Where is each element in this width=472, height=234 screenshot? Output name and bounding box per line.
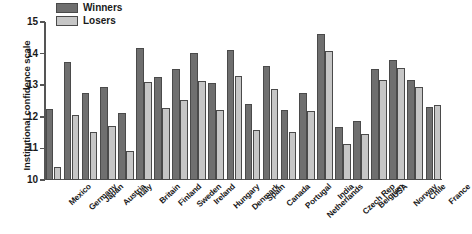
bar (299, 93, 307, 180)
bar (325, 51, 333, 180)
plot-area: 101112131415 (44, 22, 442, 180)
bar (190, 53, 198, 180)
x-axis-label: France (447, 182, 472, 206)
legend-label: Winners (83, 3, 122, 13)
bar (227, 50, 235, 180)
bar (434, 105, 442, 180)
bar (126, 151, 134, 180)
bar-group (46, 22, 62, 180)
bar (72, 115, 80, 180)
bar (198, 81, 206, 180)
bar (343, 144, 351, 180)
bar (245, 104, 253, 180)
bar-group (154, 22, 170, 180)
y-axis-tick-label: 14 (27, 49, 38, 59)
bar-group (100, 22, 116, 180)
bar (208, 83, 216, 180)
bar (289, 132, 297, 180)
bar-group (263, 22, 279, 180)
bar-group (172, 22, 188, 180)
bar-group (227, 22, 243, 180)
bar (415, 87, 423, 180)
bar-group (64, 22, 80, 180)
bar (397, 68, 405, 180)
bar (317, 34, 325, 180)
bar (136, 48, 144, 180)
bar (307, 111, 315, 180)
bar (154, 77, 162, 180)
bar (180, 100, 188, 180)
y-axis-tick-label: 10 (27, 175, 38, 185)
bar-group (407, 22, 423, 180)
bar-group (82, 22, 98, 180)
y-axis-tick-label: 11 (27, 143, 38, 153)
legend-item: Losers (56, 16, 122, 26)
y-axis-tick-label: 13 (27, 80, 38, 90)
bar-series-container (44, 22, 442, 180)
bar (253, 130, 261, 180)
bar (379, 80, 387, 180)
bar (335, 127, 343, 180)
bar-group (118, 22, 134, 180)
bar-group (335, 22, 351, 180)
legend-swatch (56, 3, 78, 13)
bar-group (317, 22, 333, 180)
bar (144, 82, 152, 180)
bar (216, 110, 224, 180)
bar (64, 62, 72, 180)
bar (118, 113, 126, 180)
y-axis-tick-label: 12 (27, 112, 38, 122)
bar-group (371, 22, 387, 180)
bar (371, 69, 379, 180)
bar (235, 76, 243, 180)
legend-item: Winners (56, 3, 122, 13)
x-axis-label: Spain (265, 182, 287, 203)
bar (162, 108, 170, 180)
bar (108, 126, 116, 180)
bar-group (245, 22, 261, 180)
bar (281, 110, 289, 180)
bar-group (281, 22, 297, 180)
bar (353, 121, 361, 180)
bar (361, 134, 369, 180)
bar (407, 80, 415, 180)
bar (100, 87, 108, 180)
legend-swatch (56, 16, 78, 26)
bar (263, 66, 271, 180)
bar-group (299, 22, 315, 180)
bar (46, 109, 54, 180)
bar-group (208, 22, 224, 180)
bar (82, 93, 90, 180)
y-axis-tick-label: 15 (27, 17, 38, 27)
bar-group (190, 22, 206, 180)
bar-group (389, 22, 405, 180)
bar (54, 167, 62, 180)
bar (389, 60, 397, 180)
bar (271, 89, 279, 180)
bar (426, 107, 434, 180)
legend-label: Losers (83, 16, 116, 26)
chart-legend: WinnersLosers (56, 3, 122, 26)
x-axis-labels: MexicoGermanyJapanAustriaItalyBritainFin… (44, 182, 442, 234)
bar (90, 132, 98, 180)
bar-group (353, 22, 369, 180)
bar-group (426, 22, 442, 180)
bar-group (136, 22, 152, 180)
bar (172, 69, 180, 180)
